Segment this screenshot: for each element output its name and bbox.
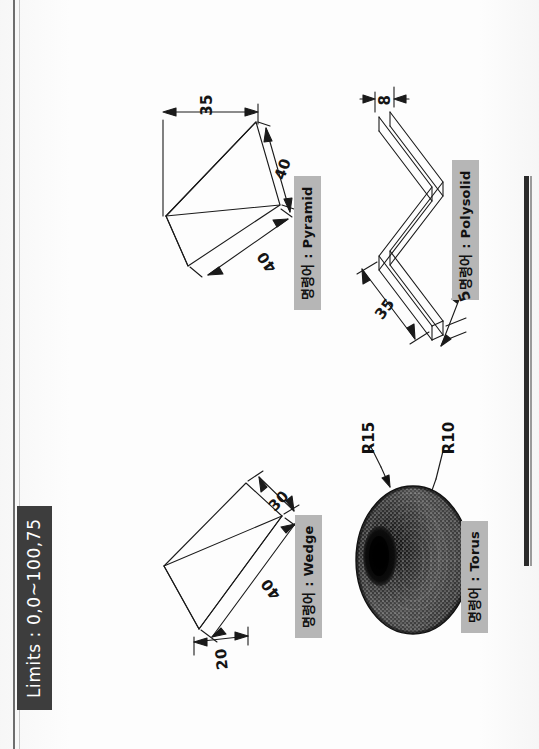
- wedge-dim-40: [201, 518, 300, 642]
- dim-value-wedge-20: 20: [212, 647, 232, 670]
- command-chip-polysolid: 명령어 : Polysolid: [457, 160, 473, 300]
- torus-mesh-svg: [354, 484, 472, 636]
- limits-label: Limits : 0,0~100,75: [17, 506, 52, 710]
- limits-chip: Limits : 0,0~100,75: [26, 506, 43, 710]
- dim-value-pyramid-40-lower: 40: [253, 248, 280, 276]
- technical-linework: [0, 0, 539, 749]
- page-border-left: [13, 0, 15, 749]
- pyramid-outline: [166, 122, 280, 266]
- paper-texture: [0, 0, 539, 749]
- command-chip-pyramid: 명령어 : Pyramid: [299, 176, 315, 310]
- dim-value-torus-r10: R10: [440, 422, 458, 454]
- command-label-pyramid: 명령어 : Pyramid: [294, 176, 321, 310]
- torus-solid-mesh: [354, 484, 472, 636]
- pyramid-dim-35: [163, 104, 258, 216]
- dim-value-torus-r15: R15: [360, 422, 378, 454]
- command-label-wedge: 명령어 : Wedge: [295, 515, 322, 638]
- dim-value-pyramid-40-upper: 40: [271, 156, 295, 182]
- dim-value-polysolid-8: 8: [376, 95, 394, 106]
- command-label-torus: 명령어 : Torus: [461, 521, 488, 633]
- dim-value-polysolid-35: 35: [371, 295, 398, 323]
- command-chip-wedge: 명령어 : Wedge: [300, 515, 316, 638]
- command-chip-torus: 명령어 : Torus: [466, 521, 482, 633]
- page-edge-shadow-right: [524, 176, 529, 566]
- dim-value-wedge-30: 30: [265, 487, 293, 515]
- dim-value-pyramid-35: 35: [198, 94, 216, 115]
- wedge-outline: [164, 483, 282, 629]
- dim-value-wedge-40: 40: [257, 575, 284, 603]
- drawing-page: Limits : 0,0~100,75 명령어 : Pyramid 명령어 : …: [0, 0, 539, 749]
- page-edge-shadow-right-soft: [530, 176, 532, 566]
- command-label-polysolid: 명령어 : Polysolid: [452, 160, 479, 300]
